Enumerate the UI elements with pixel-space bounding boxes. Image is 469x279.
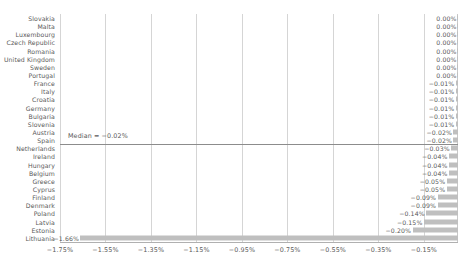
value-label: −0.01% [429,96,454,103]
value-label: −0.05% [420,177,445,184]
bar-row: Lithuania−1.66% [60,234,458,242]
bar [457,73,458,78]
bar-row: Hungary−0.04% [60,161,458,169]
value-label: 0.00% [436,39,456,46]
bar-row: Malta0.00% [60,22,458,30]
bar [424,219,458,224]
bar-row: Sweden0.00% [60,63,458,71]
x-tick-label: −1.35% [138,246,164,254]
bar [456,89,458,94]
bar-row: Netherlands−0.03% [60,144,458,152]
value-label: −0.20% [386,226,411,233]
category-label: Finland [32,194,55,201]
value-label: 0.00% [436,63,456,70]
bar [457,40,458,45]
bar [80,235,458,240]
value-label: −0.01% [429,104,454,111]
bar-row: Latvia−0.15% [60,218,458,226]
value-label: 0.00% [436,23,456,30]
value-label: −1.66% [54,234,79,241]
value-label: −0.03% [424,145,449,152]
value-label: −0.05% [420,186,445,193]
bar [456,97,458,102]
category-label: Spain [37,137,55,144]
bar [438,203,458,208]
category-label: Greece [32,177,55,184]
category-label: Belgium [29,169,55,176]
x-tick-label: −1.55% [92,246,118,254]
value-label: −0.14% [399,210,424,217]
value-label: −0.01% [429,112,454,119]
category-label: Malta [37,23,55,30]
bar [457,16,458,21]
bar-row: Croatia−0.01% [60,95,458,103]
category-label: Ireland [33,153,55,160]
bar-row: United Kingdom0.00% [60,55,458,63]
x-tick-label: −0.95% [229,246,255,254]
bar-row: Denmark−0.09% [60,201,458,209]
value-label: −0.02% [427,129,452,136]
category-label: United Kingdom [4,55,55,62]
bar-row: France−0.01% [60,79,458,87]
bar-row: Finland−0.09% [60,193,458,201]
bar-row: Germany−0.01% [60,104,458,112]
bar [449,170,458,175]
bar-row: Italy−0.01% [60,87,458,95]
value-label: 0.00% [436,31,456,38]
bar-row: Portugal0.00% [60,71,458,79]
bar [413,227,458,232]
bar [451,146,458,151]
x-tick-label: −1.15% [183,246,209,254]
bar [456,105,458,110]
bar [447,178,458,183]
category-label: Cyprus [33,186,55,193]
value-label: 0.00% [436,47,456,54]
bar-chart: Slovakia0.00%Malta0.00%Luxembourg0.00%Cz… [0,0,469,279]
bar [456,113,458,118]
value-label: −0.04% [422,161,447,168]
bar-row: Bulgaria−0.01% [60,112,458,120]
x-tick-label: −0.75% [274,246,300,254]
category-label: Luxembourg [15,31,55,38]
value-label: −0.09% [411,202,436,209]
category-label: Poland [34,210,55,217]
bar-row: Poland−0.14% [60,209,458,217]
value-label: −0.04% [422,153,447,160]
bar [453,130,458,135]
category-label: Austria [32,129,55,136]
bar [453,138,458,143]
bar [457,24,458,29]
bar-row: Estonia−0.20% [60,226,458,234]
value-label: −0.09% [411,194,436,201]
bar-rows: Slovakia0.00%Malta0.00%Luxembourg0.00%Cz… [60,14,458,242]
x-tick-label: −0.55% [320,246,346,254]
category-label: Romania [27,47,55,54]
x-tick-label: −0.35% [365,246,391,254]
bar [457,32,458,37]
bar [456,81,458,86]
category-label: Latvia [36,218,55,225]
category-label: Denmark [26,202,55,209]
category-label: Slovakia [28,15,55,22]
category-label: Portugal [29,72,55,79]
bar [447,187,458,192]
category-label: Estonia [32,226,55,233]
bar [438,195,458,200]
category-label: Bulgaria [29,112,55,119]
bar [426,211,458,216]
value-label: 0.00% [436,55,456,62]
x-tick-label: −0.15% [411,246,437,254]
value-label: −0.02% [427,137,452,144]
category-label: Hungary [28,161,55,168]
category-label: Lithuania [25,234,55,241]
category-label: Slovenia [28,120,55,127]
value-label: −0.04% [422,169,447,176]
value-label: −0.15% [397,218,422,225]
category-label: Czech Republic [6,39,55,46]
bar-row: Greece−0.05% [60,177,458,185]
bar [449,154,458,159]
category-label: Croatia [32,96,55,103]
bar-row: Luxembourg0.00% [60,30,458,38]
bar [457,48,458,53]
category-label: France [34,80,55,87]
